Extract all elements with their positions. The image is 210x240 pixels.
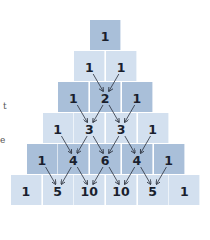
triangle-cell: 3 bbox=[74, 113, 105, 143]
triangle-cell: 10 bbox=[106, 175, 137, 205]
triangle-cell: 10 bbox=[74, 175, 105, 205]
triangle-cell: 1 bbox=[27, 144, 58, 174]
triangle-cell: 1 bbox=[154, 144, 185, 174]
triangle-cell: 1 bbox=[138, 113, 169, 143]
triangle-cell: 5 bbox=[43, 175, 74, 205]
triangle-cell: 5 bbox=[138, 175, 169, 205]
triangle-cell: 1 bbox=[122, 82, 153, 112]
edge-text-fragment: e bbox=[0, 135, 5, 145]
triangle-cell: 1 bbox=[106, 51, 137, 81]
triangle-cell: 4 bbox=[58, 144, 89, 174]
triangle-cell: 6 bbox=[90, 144, 121, 174]
triangle-cell: 1 bbox=[43, 113, 74, 143]
triangle-cell: 3 bbox=[106, 113, 137, 143]
triangle-cell: 1 bbox=[11, 175, 42, 205]
triangle-cell: 1 bbox=[90, 20, 121, 50]
edge-text-fragment: t bbox=[3, 101, 7, 111]
triangle-cell: 2 bbox=[90, 82, 121, 112]
triangle-cell: 1 bbox=[74, 51, 105, 81]
triangle-cell: 4 bbox=[122, 144, 153, 174]
triangle-cell: 1 bbox=[58, 82, 89, 112]
triangle-cell: 1 bbox=[169, 175, 200, 205]
